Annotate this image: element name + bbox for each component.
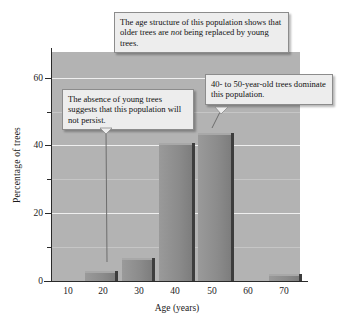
callout-tail-right: [215, 107, 228, 114]
callout-tail-left: [100, 128, 112, 134]
annotation-callout-tails: [0, 0, 346, 324]
bar-chart-figure: 60 40 20 0 10 20 30 40 50 60 70 Percenta…: [0, 0, 346, 324]
